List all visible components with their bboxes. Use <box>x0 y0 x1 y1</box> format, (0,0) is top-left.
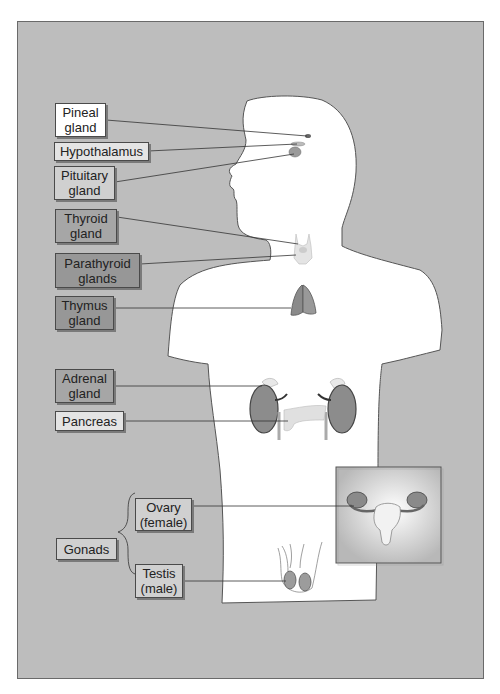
label-ovary: Ovary (female) <box>135 498 192 531</box>
label-parathyroid-glands: Parathyroid glands <box>55 253 140 288</box>
label-line: (female) <box>140 515 188 530</box>
label-line: glands <box>78 271 116 286</box>
label-testis: Testis (male) <box>135 564 183 598</box>
label-line: gland <box>65 120 97 135</box>
label-pancreas: Pancreas <box>55 411 124 431</box>
label-pineal-gland: Pineal gland <box>55 103 106 137</box>
label-adrenal-gland: Adrenal gland <box>55 369 114 403</box>
label-thymus-gland: Thymus gland <box>55 296 114 330</box>
pituitary-gland-icon <box>289 147 301 157</box>
label-line: Pituitary <box>61 168 108 183</box>
label-line: gland <box>69 313 101 328</box>
label-thyroid-gland: Thyroid gland <box>55 209 117 243</box>
label-line: Adrenal <box>62 371 107 386</box>
label-line: gland <box>69 386 101 401</box>
label-line: Thymus <box>61 298 107 313</box>
label-line: Testis <box>142 566 175 581</box>
label-line: (male) <box>141 581 178 596</box>
label-line: Gonads <box>64 542 110 557</box>
label-hypothalamus: Hypothalamus <box>54 142 149 161</box>
ovary-inset <box>336 467 443 565</box>
label-line: Hypothalamus <box>60 144 143 159</box>
label-line: Pineal <box>62 105 98 120</box>
label-line: Parathyroid <box>64 256 130 271</box>
label-line: Pancreas <box>62 414 117 429</box>
label-line: gland <box>69 183 101 198</box>
label-line: Thyroid <box>64 211 107 226</box>
label-pituitary-gland: Pituitary gland <box>54 166 115 200</box>
label-gonads: Gonads <box>56 538 117 560</box>
label-line: gland <box>70 226 102 241</box>
label-line: Ovary <box>146 500 181 515</box>
